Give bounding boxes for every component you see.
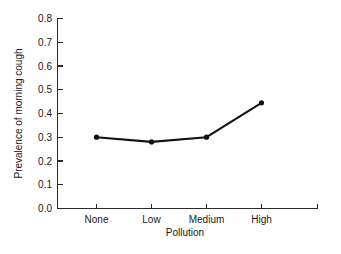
y-tick-label-0: 0.0 [38,203,52,214]
y-axis-title: Prevalence of morning cough [13,48,24,178]
x-tick-label-none: None [85,214,109,225]
data-point-low [149,139,154,144]
data-point-high [259,100,264,105]
y-tick-label-8: 0.8 [38,13,52,24]
line-chart: 0.0 0.1 0.2 0.3 0.4 0.5 0.6 0.7 0.8 None… [0,0,341,254]
x-tick-label-low: Low [142,214,161,225]
x-axis-title: Pollution [166,227,204,238]
y-tick-label-1: 0.1 [38,179,52,190]
data-point-none [94,135,99,140]
data-point-medium [204,135,209,140]
x-tick-label-medium: Medium [189,214,225,225]
y-tick-label-2: 0.2 [38,156,52,167]
y-tick-label-4: 0.4 [38,108,52,119]
x-tick-label-high: High [251,214,272,225]
y-tick-label-6: 0.6 [38,61,52,72]
chart-figure: 0.0 0.1 0.2 0.3 0.4 0.5 0.6 0.7 0.8 None… [0,0,341,254]
y-tick-label-5: 0.5 [38,84,52,95]
y-tick-label-7: 0.7 [38,37,52,48]
y-tick-label-3: 0.3 [38,132,52,143]
